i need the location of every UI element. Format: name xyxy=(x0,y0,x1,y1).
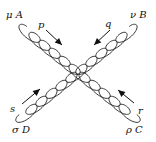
label-leg-c: ρ C xyxy=(126,125,143,135)
arrow-head-icon xyxy=(118,90,125,97)
momentum-p: p xyxy=(38,20,44,30)
diagram-canvas xyxy=(0,0,156,142)
momentum-r: r xyxy=(138,106,143,116)
momentum-q: q xyxy=(105,19,111,29)
momentum-s: s xyxy=(10,104,15,114)
label-leg-d: σ D xyxy=(12,125,30,135)
four-gluon-vertex-diagram: μ A p ν B q ρ C r σ D s xyxy=(0,0,156,142)
gluon-lines xyxy=(16,24,140,122)
label-leg-a: μ A xyxy=(6,10,23,20)
label-leg-b: ν B xyxy=(130,10,147,20)
